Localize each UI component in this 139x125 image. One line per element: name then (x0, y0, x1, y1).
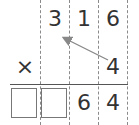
carry-arrow-icon (0, 0, 139, 125)
